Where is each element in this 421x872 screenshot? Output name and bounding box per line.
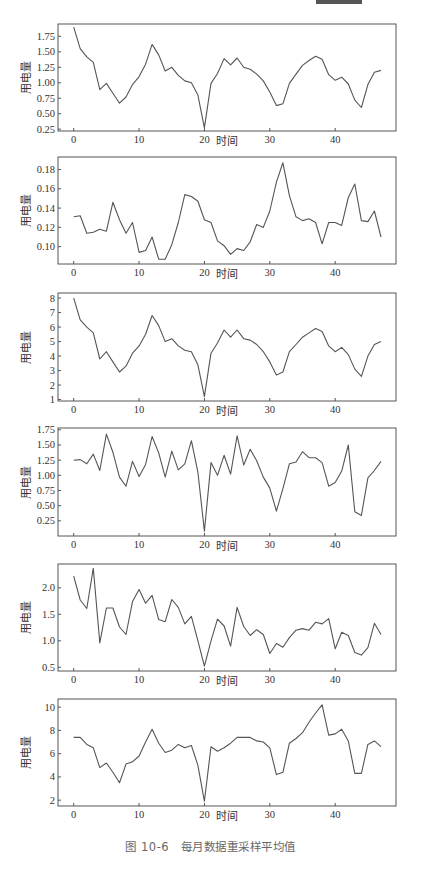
y-tick-label: 8 [50, 725, 55, 736]
y-tick-label: 1 [50, 394, 55, 405]
y-tick-label: 0.25 [37, 515, 55, 526]
y-tick-label: 8 [50, 293, 55, 304]
x-tick-label: 20 [199, 267, 210, 278]
data-line [74, 163, 381, 259]
plot-frame [58, 293, 396, 401]
y-tick-label: 3 [50, 365, 55, 376]
x-tick-label: 40 [330, 809, 341, 820]
x-tick-label: 20 [199, 674, 210, 685]
x-tick-label: 30 [265, 134, 276, 145]
x-tick-label: 30 [265, 539, 276, 550]
x-tick-label: 20 [199, 809, 210, 820]
y-tick-label: 0.75 [37, 93, 55, 104]
y-tick-label: 4 [50, 351, 56, 362]
y-tick-label: 6 [50, 322, 55, 333]
line-chart-6: 246810010203040时间用电量 [0, 699, 421, 836]
page-header-bar [316, 0, 362, 4]
y-tick-label: 5 [50, 336, 55, 347]
x-axis-label: 时间 [216, 135, 238, 148]
x-axis-label: 时间 [216, 268, 238, 281]
x-tick-label: 20 [199, 134, 210, 145]
y-tick-label: 7 [50, 307, 55, 318]
y-tick-label: 1.25 [37, 455, 55, 466]
y-axis-label: 用电量 [20, 61, 33, 94]
y-tick-label: 1.00 [37, 77, 55, 88]
y-tick-label: 0.75 [37, 485, 55, 496]
figure-caption: 图 10-6 每月数据重采样平均值 [0, 838, 421, 854]
y-tick-label: 1.50 [37, 46, 55, 57]
y-tick-label: 1.0 [42, 635, 55, 646]
line-chart-2: 0.100.120.140.160.18010203040时间用电量 [0, 157, 421, 294]
data-line [74, 298, 381, 397]
line-chart-1: 0.250.500.751.001.251.501.75010203040时间用… [0, 24, 421, 161]
plot-frame [58, 24, 396, 131]
x-tick-label: 30 [265, 674, 276, 685]
x-tick-label: 0 [71, 404, 76, 415]
y-tick-label: 1.00 [37, 470, 55, 481]
x-tick-label: 40 [330, 134, 341, 145]
x-tick-label: 30 [265, 267, 276, 278]
y-tick-label: 0.18 [37, 164, 55, 175]
y-axis-label: 用电量 [20, 194, 33, 227]
line-chart-4: 0.250.500.751.001.251.501.75010203040时间用… [0, 428, 421, 566]
x-tick-label: 0 [71, 809, 76, 820]
y-tick-label: 0.50 [37, 500, 55, 511]
x-tick-label: 40 [330, 674, 341, 685]
x-tick-label: 10 [134, 404, 145, 415]
x-tick-label: 40 [330, 267, 341, 278]
plot-frame [58, 699, 396, 806]
x-tick-label: 20 [199, 404, 210, 415]
y-tick-label: 1.50 [37, 439, 55, 450]
data-line [74, 434, 381, 531]
line-chart-5: 0.51.01.52.0010203040时间用电量 [0, 564, 421, 701]
y-tick-label: 2.0 [42, 582, 55, 593]
y-tick-label: 0.14 [37, 203, 56, 214]
data-line [74, 705, 381, 802]
x-tick-label: 20 [199, 539, 210, 550]
x-tick-label: 10 [134, 674, 145, 685]
line-chart-3: 12345678010203040时间用电量 [0, 293, 421, 431]
x-tick-label: 30 [265, 809, 276, 820]
y-tick-label: 0.16 [37, 183, 55, 194]
y-axis-label: 用电量 [20, 601, 33, 634]
y-axis-label: 用电量 [20, 466, 33, 499]
y-tick-label: 4 [50, 771, 56, 782]
plot-frame [58, 564, 396, 671]
x-tick-label: 0 [71, 674, 76, 685]
y-tick-label: 0.25 [37, 124, 55, 135]
y-tick-label: 0.5 [42, 662, 55, 673]
y-tick-label: 1.5 [42, 609, 55, 620]
y-tick-label: 1.75 [37, 424, 55, 435]
y-tick-label: 6 [50, 748, 55, 759]
y-tick-label: 1.75 [37, 31, 55, 42]
x-tick-label: 10 [134, 134, 145, 145]
x-tick-label: 30 [265, 404, 276, 415]
data-line [74, 27, 381, 128]
plot-frame [58, 428, 396, 536]
x-axis-label: 时间 [216, 810, 238, 823]
x-axis-label: 时间 [216, 540, 238, 553]
x-tick-label: 0 [71, 267, 76, 278]
x-axis-label: 时间 [216, 405, 238, 418]
x-tick-label: 0 [71, 539, 76, 550]
y-tick-label: 2 [50, 795, 55, 806]
x-tick-label: 0 [71, 134, 76, 145]
y-axis-label: 用电量 [20, 736, 33, 769]
x-tick-label: 40 [330, 539, 341, 550]
x-tick-label: 10 [134, 539, 145, 550]
data-line [74, 568, 381, 666]
y-tick-label: 0.50 [37, 108, 55, 119]
x-tick-label: 10 [134, 809, 145, 820]
x-tick-label: 40 [330, 404, 341, 415]
y-tick-label: 0.12 [37, 222, 55, 233]
x-axis-label: 时间 [216, 675, 238, 688]
y-tick-label: 2 [50, 380, 55, 391]
y-tick-label: 1.25 [37, 62, 55, 73]
y-axis-label: 用电量 [20, 331, 33, 364]
y-tick-label: 10 [45, 702, 56, 713]
y-tick-label: 0.10 [37, 241, 55, 252]
x-tick-label: 10 [134, 267, 145, 278]
